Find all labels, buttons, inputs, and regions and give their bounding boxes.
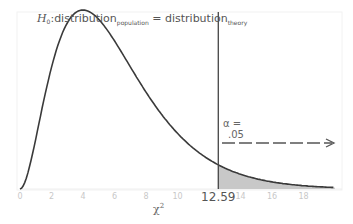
x-tick-label: 4 xyxy=(80,192,85,201)
x-tick-label: 18 xyxy=(298,192,308,201)
x-tick-label: 8 xyxy=(143,192,148,201)
x-axis-ticks: 0246810141618 xyxy=(17,192,308,201)
rejection-region xyxy=(218,165,335,189)
alpha-value: .05 xyxy=(228,129,244,140)
density-curve xyxy=(20,10,333,189)
chi-square-chart: 0246810141618 12.59 χ2 H0:distributionpo… xyxy=(0,0,353,224)
x-tick-label: 2 xyxy=(49,192,54,201)
x-tick-label: 6 xyxy=(112,192,117,201)
alpha-label: α = xyxy=(223,118,241,129)
x-tick-label: 0 xyxy=(17,192,22,201)
hypothesis-label: H0:distributionpopulation = distribution… xyxy=(36,12,248,27)
x-tick-label: 10 xyxy=(172,192,182,201)
x-tick-label: 14 xyxy=(235,192,245,201)
x-axis-label: χ2 xyxy=(153,202,164,216)
plot-frame xyxy=(17,12,342,190)
critical-value-label: 12.59 xyxy=(201,190,235,204)
x-tick-label: 16 xyxy=(267,192,277,201)
